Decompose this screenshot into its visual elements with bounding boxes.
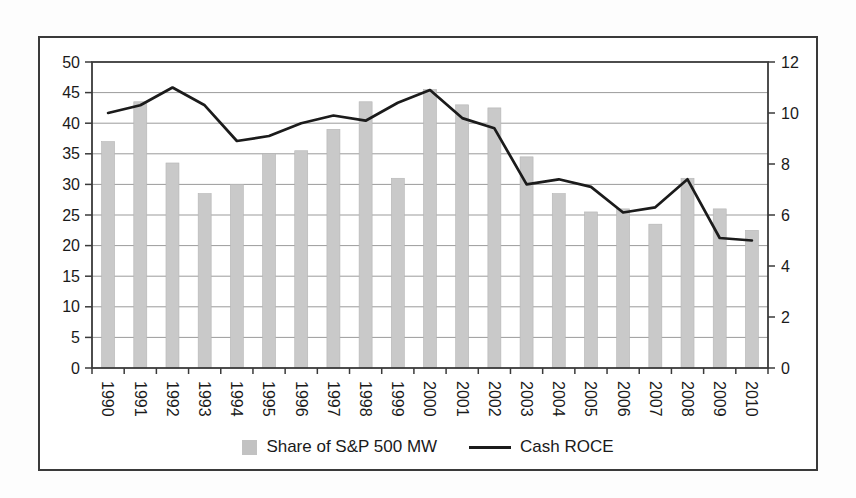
right-axis-label: 0: [781, 360, 790, 377]
left-axis-label: 25: [62, 207, 80, 224]
bar-series-label: Share of S&P 500 MW: [266, 437, 437, 457]
bar-1992: [166, 163, 179, 368]
left-axis-label: 0: [71, 360, 80, 377]
bar-2004: [552, 194, 565, 368]
bar-2008: [681, 178, 694, 368]
bar-1990: [102, 142, 115, 368]
right-axis-label: 10: [781, 105, 799, 122]
left-axis-label: 15: [62, 268, 80, 285]
x-axis-label-2010: 2010: [743, 381, 760, 417]
bar-1999: [391, 178, 404, 368]
scanned-chart-page: 0510152025303540455002468101219901991199…: [0, 0, 856, 498]
x-axis-label-1993: 1993: [196, 381, 213, 417]
x-axis-label-2002: 2002: [486, 381, 503, 417]
right-axis-label: 2: [781, 309, 790, 326]
bar-2000: [424, 90, 437, 368]
x-axis-label-1992: 1992: [164, 381, 181, 417]
left-axis-label: 10: [62, 298, 80, 315]
line-series-swatch-icon: [469, 446, 511, 449]
x-axis-label-1996: 1996: [293, 381, 310, 417]
left-axis-label: 30: [62, 176, 80, 193]
bar-2010: [745, 230, 758, 368]
x-axis-label-2000: 2000: [421, 381, 438, 417]
x-axis-label-1991: 1991: [132, 381, 149, 417]
x-axis-label-2007: 2007: [647, 381, 664, 417]
x-axis-label-2006: 2006: [615, 381, 632, 417]
x-axis-label-1998: 1998: [357, 381, 374, 417]
x-axis-label-1999: 1999: [389, 381, 406, 417]
right-axis-label: 12: [781, 54, 799, 71]
x-axis-label-2004: 2004: [550, 381, 567, 417]
bar-1994: [230, 184, 243, 368]
bar-2003: [520, 157, 533, 368]
x-axis-label-1995: 1995: [260, 381, 277, 417]
left-axis-label: 35: [62, 145, 80, 162]
chart-legend: Share of S&P 500 MW Cash ROCE: [40, 437, 816, 457]
x-axis-label-1997: 1997: [325, 381, 342, 417]
chart-figure-frame: 0510152025303540455002468101219901991199…: [38, 36, 818, 471]
left-axis-label: 5: [71, 329, 80, 346]
legend-item-bar-series: Share of S&P 500 MW: [242, 437, 437, 457]
right-axis-label: 4: [781, 258, 790, 275]
bar-1995: [263, 154, 276, 368]
bar-1991: [134, 102, 147, 368]
bar-2005: [584, 212, 597, 368]
bar-2007: [649, 224, 662, 368]
x-axis-label-2008: 2008: [679, 381, 696, 417]
x-axis-label-2005: 2005: [582, 381, 599, 417]
bar-2001: [456, 105, 469, 368]
x-axis-label-2001: 2001: [454, 381, 471, 417]
bar-series-swatch-icon: [242, 440, 257, 455]
x-axis-label-2009: 2009: [711, 381, 728, 417]
combo-bar-line-chart: 0510152025303540455002468101219901991199…: [40, 38, 816, 469]
left-axis-label: 50: [62, 54, 80, 71]
right-axis-label: 8: [781, 156, 790, 173]
bar-2002: [488, 108, 501, 368]
line-series-label: Cash ROCE: [520, 437, 614, 457]
right-axis-label: 6: [781, 207, 790, 224]
left-axis-label: 20: [62, 237, 80, 254]
x-axis-label-1990: 1990: [99, 381, 116, 417]
left-axis-label: 45: [62, 84, 80, 101]
bar-1996: [295, 151, 308, 368]
left-axis-label: 40: [62, 115, 80, 132]
x-axis-label-2003: 2003: [518, 381, 535, 417]
bar-2009: [713, 209, 726, 368]
bar-1997: [327, 129, 340, 368]
bar-1993: [198, 194, 211, 368]
x-axis-label-1994: 1994: [228, 381, 245, 417]
bar-1998: [359, 102, 372, 368]
legend-item-line-series: Cash ROCE: [469, 437, 614, 457]
bar-2006: [617, 209, 630, 368]
